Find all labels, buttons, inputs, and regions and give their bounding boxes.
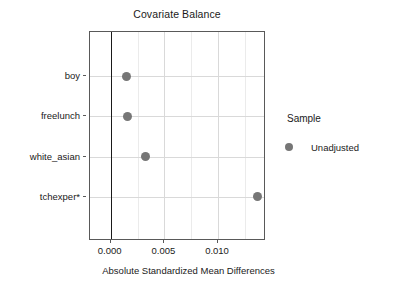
- data-point: [122, 72, 131, 81]
- gridline-vertical-minor: [245, 32, 246, 239]
- x-tick-label: 0.000: [98, 245, 122, 256]
- gridline-horizontal: [90, 76, 264, 77]
- x-axis-title-wrapper: Absolute Standardized Mean Differences: [0, 265, 393, 276]
- legend-label: Unadjusted: [311, 142, 359, 153]
- legend-key: [280, 138, 298, 156]
- x-tick-mark: [110, 240, 111, 243]
- y-tick-label: freelunch: [41, 110, 80, 121]
- legend-entries: Unadjusted: [280, 138, 390, 156]
- gridline-vertical-minor: [138, 32, 139, 239]
- x-axis-title: Absolute Standardized Mean Differences: [102, 265, 275, 276]
- gridline-horizontal: [90, 116, 264, 117]
- chart-title: Covariate Balance: [89, 8, 265, 20]
- x-tick-label: 0.005: [151, 245, 175, 256]
- x-tick-mark: [163, 240, 164, 243]
- data-point: [141, 152, 150, 161]
- gridline-horizontal: [90, 157, 264, 158]
- y-tick-label: tchexper*: [40, 190, 80, 201]
- y-tick-mark: [83, 196, 86, 197]
- y-tick-mark: [83, 115, 86, 116]
- plot-area: [90, 32, 264, 239]
- gridline-horizontal: [90, 197, 264, 198]
- x-tick-mark: [217, 240, 218, 243]
- plot-panel: [89, 31, 265, 240]
- legend-dot-icon: [285, 143, 293, 151]
- y-tick-mark: [83, 75, 86, 76]
- data-point: [253, 192, 262, 201]
- data-point: [123, 112, 132, 121]
- gridline-vertical-major: [164, 32, 165, 239]
- y-axis: boyfreelunchwhite_asiantchexper*: [0, 31, 86, 240]
- y-tick-label: white_asian: [30, 150, 80, 161]
- y-tick-mark: [83, 156, 86, 157]
- gridline-vertical-minor: [191, 32, 192, 239]
- covariate-balance-chart: Covariate Balance boyfreelunchwhite_asia…: [0, 0, 393, 291]
- legend-title: Sample: [280, 113, 390, 124]
- legend-entry[interactable]: Unadjusted: [280, 138, 390, 156]
- gridline-vertical-major: [218, 32, 219, 239]
- legend: Sample Unadjusted: [280, 113, 390, 156]
- x-tick-label: 0.010: [205, 245, 229, 256]
- zero-reference-line: [111, 32, 112, 239]
- y-tick-label: boy: [65, 70, 80, 81]
